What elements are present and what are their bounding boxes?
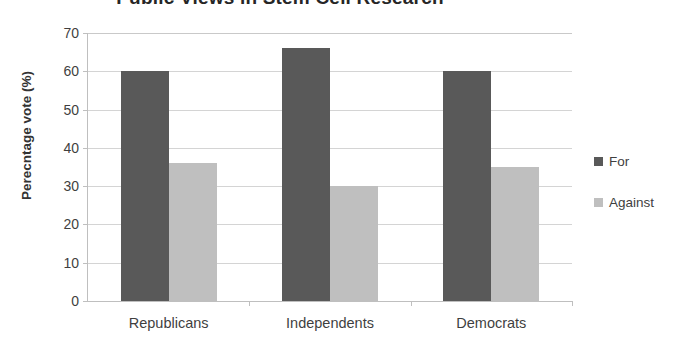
x-axis-label-democrats: Democrats xyxy=(456,315,526,331)
y-tick-label: 30 xyxy=(63,178,79,194)
y-tick-label: 50 xyxy=(63,102,79,118)
bar-democrats-for xyxy=(443,71,491,301)
x-axis-label-independents: Independents xyxy=(286,315,374,331)
y-tick-label: 60 xyxy=(63,63,79,79)
legend-swatch-icon xyxy=(594,198,603,207)
x-axis-label-republicans: Republicans xyxy=(129,315,209,331)
bar-group xyxy=(411,33,572,301)
bar-chart: Public Views in Stem Cell Research Perec… xyxy=(0,0,690,358)
chart-legend: ForAgainst xyxy=(594,154,654,236)
bar-group xyxy=(249,33,410,301)
legend-item-for[interactable]: For xyxy=(594,154,654,169)
bars xyxy=(88,33,572,301)
y-tick-label: 0 xyxy=(71,293,79,309)
bar-independents-against xyxy=(330,186,378,301)
x-tick-mark xyxy=(249,301,250,306)
x-tick-mark xyxy=(411,301,412,306)
x-tick-mark xyxy=(572,301,573,306)
bar-republicans-for xyxy=(121,71,169,301)
plot-area: 010203040506070 RepublicansIndependentsD… xyxy=(88,33,572,301)
bar-republicans-against xyxy=(169,163,217,301)
legend-item-against[interactable]: Against xyxy=(594,195,654,210)
legend-swatch-icon xyxy=(594,157,603,166)
y-tick-label: 40 xyxy=(63,140,79,156)
y-tick-label: 10 xyxy=(63,255,79,271)
y-tick-label: 20 xyxy=(63,216,79,232)
bar-democrats-against xyxy=(491,167,539,301)
chart-title: Public Views in Stem Cell Research xyxy=(0,0,560,10)
y-tick-label: 70 xyxy=(63,25,79,41)
y-axis-title: Perecntage vote (%) xyxy=(19,36,34,236)
bar-group xyxy=(88,33,249,301)
legend-label: For xyxy=(609,154,629,169)
x-axis-line xyxy=(87,301,572,302)
legend-label: Against xyxy=(609,195,654,210)
bar-independents-for xyxy=(282,48,330,301)
